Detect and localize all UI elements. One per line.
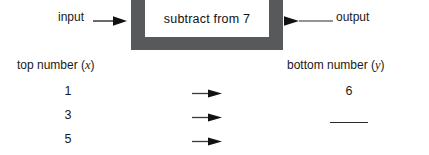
machine-box-frame: subtract from 7 — [131, 0, 283, 50]
row-input-value: 3 — [46, 108, 90, 122]
table-row: 3 — [0, 106, 429, 130]
row-output-value: 6 — [326, 84, 372, 98]
row-arrow-icon — [192, 113, 224, 122]
answer-blank-rule — [330, 122, 368, 123]
input-label: input — [58, 10, 84, 24]
row-arrow-icon — [192, 137, 224, 146]
machine-box-inner: subtract from 7 — [145, 0, 269, 37]
row-arrow-icon — [192, 89, 224, 98]
output-arrow-icon — [283, 16, 333, 26]
column-header-bottom-number-paren: ) — [381, 58, 385, 72]
row-output-blank[interactable] — [326, 108, 372, 128]
column-header-bottom-number-text: bottom number ( — [287, 58, 375, 72]
machine-operation-label: subtract from 7 — [164, 12, 250, 26]
column-header-top-number-text: top number ( — [17, 58, 85, 72]
column-header-top-number: top number (x) — [17, 58, 95, 73]
input-output-table: top number (x) bottom number (y) 1 6 3 5 — [0, 58, 429, 155]
row-input-value: 5 — [46, 132, 90, 146]
table-row: 5 — [0, 130, 429, 154]
output-label: output — [336, 10, 369, 24]
function-machine-diagram: input subtract from 7 output — [0, 0, 429, 52]
input-arrow-icon — [93, 16, 131, 26]
table-row: 1 6 — [0, 82, 429, 106]
row-input-value: 1 — [46, 84, 90, 98]
column-header-bottom-number: bottom number (y) — [287, 58, 385, 73]
column-header-top-number-paren: ) — [91, 58, 95, 72]
